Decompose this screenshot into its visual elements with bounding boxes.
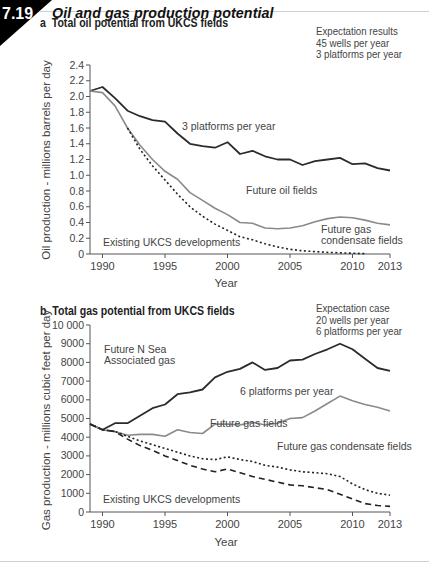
x-tick-label: 2010 bbox=[340, 260, 364, 272]
y-tick-label: 0.4 bbox=[69, 216, 84, 228]
x-tick-label: 1995 bbox=[153, 260, 177, 272]
gas-label-associated-gas: Associated gas bbox=[104, 354, 175, 366]
gas-x-axis-label: Year bbox=[214, 536, 237, 548]
y-tick-label: 4000 bbox=[61, 431, 85, 443]
gas-label-future-gas-fields: Future gas fields bbox=[210, 417, 288, 429]
y-tick-label: 1.6 bbox=[69, 122, 84, 134]
x-tick-label: 2010 bbox=[340, 518, 364, 530]
y-tick-label: 10 000 bbox=[52, 319, 84, 331]
x-tick-label: 1990 bbox=[90, 260, 114, 272]
x-tick-label: 2005 bbox=[278, 518, 302, 530]
y-tick-label: 6000 bbox=[61, 393, 85, 405]
gas-label-6-platforms: 6 platforms per year bbox=[240, 385, 334, 397]
gas-y-axis-label: Gas production - millions cubic feet per… bbox=[40, 309, 52, 530]
y-tick-label: 1.0 bbox=[69, 169, 84, 181]
gas-label-existing-ukcs: Existing UKCS developments bbox=[103, 493, 240, 505]
y-tick-label: 2.0 bbox=[69, 90, 84, 102]
x-tick-label: 1990 bbox=[90, 518, 114, 530]
y-tick-label: 2.2 bbox=[69, 74, 84, 86]
oil-label-3-platforms: 3 platforms per year bbox=[182, 120, 276, 132]
y-tick-label: 7000 bbox=[61, 375, 85, 387]
x-tick-label: 1995 bbox=[153, 518, 177, 530]
y-tick-label: 1.4 bbox=[69, 137, 84, 149]
x-tick-label: 2005 bbox=[278, 260, 302, 272]
y-tick-label: 5000 bbox=[61, 412, 85, 424]
oil-label-existing-ukcs: Existing UKCS developments bbox=[103, 236, 240, 248]
oil-label-future-oil-fields: Future oil fields bbox=[246, 184, 317, 196]
oil-y-axis-label: Oil production - millions barrels per da… bbox=[40, 60, 52, 260]
x-tick-label: 2000 bbox=[215, 260, 239, 272]
y-tick-label: 9000 bbox=[61, 337, 85, 349]
y-tick-label: 0.6 bbox=[69, 200, 84, 212]
oil-line-chart: 00.20.40.60.81.01.21.41.61.82.02.22.4199… bbox=[40, 59, 403, 290]
oil-label-condensate-fields: condensate fields bbox=[321, 234, 403, 246]
gas-line-chart: 010002000300040005000600070008000900010 … bbox=[40, 309, 412, 548]
x-tick-label: 2000 bbox=[215, 518, 239, 530]
y-tick-label: 1.8 bbox=[69, 106, 84, 118]
y-tick-label: 0.2 bbox=[69, 232, 84, 244]
y-tick-label: 0 bbox=[78, 248, 84, 260]
y-tick-label: 0 bbox=[78, 506, 84, 518]
x-tick-label: 2013 bbox=[378, 518, 402, 530]
y-tick-label: 1.2 bbox=[69, 153, 84, 165]
y-tick-label: 8000 bbox=[61, 356, 85, 368]
x-tick-label: 2013 bbox=[378, 260, 402, 272]
footer-rule bbox=[0, 561, 429, 562]
charts-canvas: 00.20.40.60.81.01.21.41.61.82.02.22.4199… bbox=[0, 0, 429, 574]
y-tick-label: 1000 bbox=[61, 487, 85, 499]
gas-label-condensate-fields: Future gas condensate fields bbox=[277, 440, 412, 452]
oil-x-axis-label: Year bbox=[214, 277, 237, 289]
y-tick-label: 2.4 bbox=[69, 59, 84, 71]
y-tick-label: 2000 bbox=[61, 468, 85, 480]
y-tick-label: 0.8 bbox=[69, 185, 84, 197]
y-tick-label: 3000 bbox=[61, 449, 85, 461]
